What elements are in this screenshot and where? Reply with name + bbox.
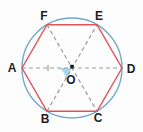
vertex-label-a: A (8, 61, 17, 75)
vertex-label-b: B (41, 112, 50, 126)
center-point-dot (70, 65, 74, 69)
hexagon-in-circle-diagram: F E A D B C O (0, 0, 143, 132)
vertex-label-e: E (95, 9, 103, 23)
vertex-label-f: F (40, 9, 47, 23)
geometry-figure: F E A D B C O (0, 0, 143, 132)
center-label-o: O (66, 73, 75, 87)
vertex-label-d: D (127, 62, 136, 76)
vertex-label-c: C (94, 111, 103, 125)
